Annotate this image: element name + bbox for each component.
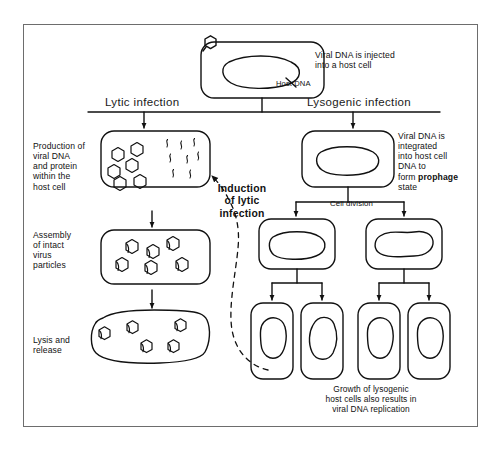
injection-description: Viral DNA is injected into a host cell xyxy=(315,50,395,70)
induction-label: Induction of lytic infection xyxy=(196,183,288,220)
assembly-description: Assembly of intact virus particles xyxy=(33,230,71,271)
lytic-infection-label: Lytic infection xyxy=(105,96,180,110)
virus-infection-diagram: Lytic infection Lysogenic infection Vira… xyxy=(0,0,503,451)
growth-caption: Growth of lysogenic host cells also resu… xyxy=(286,385,456,415)
lysis-description: Lysis and release xyxy=(33,335,70,355)
prophage-keyword: prophage xyxy=(418,172,458,182)
lysogenic-infection-label: Lysogenic infection xyxy=(307,96,411,110)
integration-text-part2: state xyxy=(398,182,417,192)
integration-description: Viral DNA is integrated into host cell D… xyxy=(398,131,458,192)
host-dna-label: Host DNA xyxy=(276,80,311,89)
cell-division-label: Cell division xyxy=(330,199,373,208)
production-description: Production of viral DNA and protein with… xyxy=(33,141,85,192)
diagram-frame xyxy=(23,24,478,427)
